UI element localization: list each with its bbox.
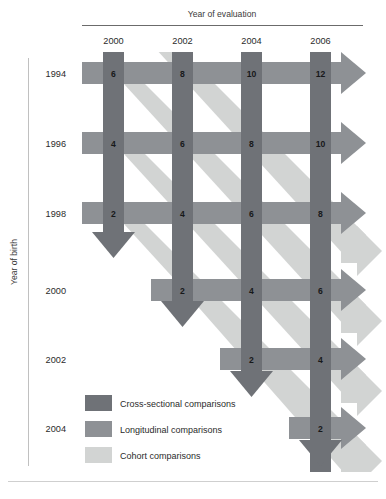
cell-1996-2006: 10 xyxy=(316,139,326,149)
cell-1994-2004: 10 xyxy=(247,69,257,79)
cell-2000-2002: 2 xyxy=(180,286,185,296)
cell-1996-2000: 4 xyxy=(111,139,116,149)
row-label-1994: 1994 xyxy=(46,69,66,79)
legend-label-longitudinal: Longitudinal comparisons xyxy=(120,425,223,435)
cell-1994-2002: 8 xyxy=(180,69,185,79)
legend-label-cross-sectional: Cross-sectional comparisons xyxy=(120,399,236,409)
legend-swatch-cohort xyxy=(85,447,112,463)
cell-1998-2004: 6 xyxy=(249,209,254,219)
cell-1998-2002: 4 xyxy=(180,209,185,219)
y-axis-title: Year of birth xyxy=(9,239,19,285)
row-label-2000: 2000 xyxy=(46,286,66,296)
cell-1996-2002: 6 xyxy=(180,139,185,149)
column-label-2006: 2006 xyxy=(310,36,330,46)
column-label-2002: 2002 xyxy=(172,36,192,46)
cell-2004-2006: 2 xyxy=(318,424,323,434)
cell-2000-2006: 6 xyxy=(318,286,323,296)
column-label-2000: 2000 xyxy=(103,36,123,46)
cell-2002-2004: 2 xyxy=(249,355,254,365)
cell-1998-2000: 2 xyxy=(111,209,116,219)
row-label-2004: 2004 xyxy=(46,424,66,434)
cohort-sequential-design-diagram: Year of evaluation 2000 2002 2004 2006 Y… xyxy=(0,0,386,499)
cell-2000-2004: 4 xyxy=(249,286,254,296)
legend-swatch-longitudinal xyxy=(85,421,112,437)
cell-1994-2000: 6 xyxy=(111,69,116,79)
cell-1998-2006: 8 xyxy=(318,209,323,219)
row-label-1996: 1996 xyxy=(46,139,66,149)
legend-label-cohort: Cohort comparisons xyxy=(120,451,201,461)
x-axis-title: Year of evaluation xyxy=(188,9,257,19)
row-label-1998: 1998 xyxy=(46,209,66,219)
legend-swatch-cross-sectional xyxy=(85,395,112,411)
column-label-2004: 2004 xyxy=(241,36,261,46)
row-label-2002: 2002 xyxy=(46,355,66,365)
cell-1994-2006: 12 xyxy=(316,69,326,79)
cell-1996-2004: 8 xyxy=(249,139,254,149)
cell-2002-2006: 4 xyxy=(318,355,323,365)
figure-root: Year of evaluation 2000 2002 2004 2006 Y… xyxy=(0,0,386,499)
